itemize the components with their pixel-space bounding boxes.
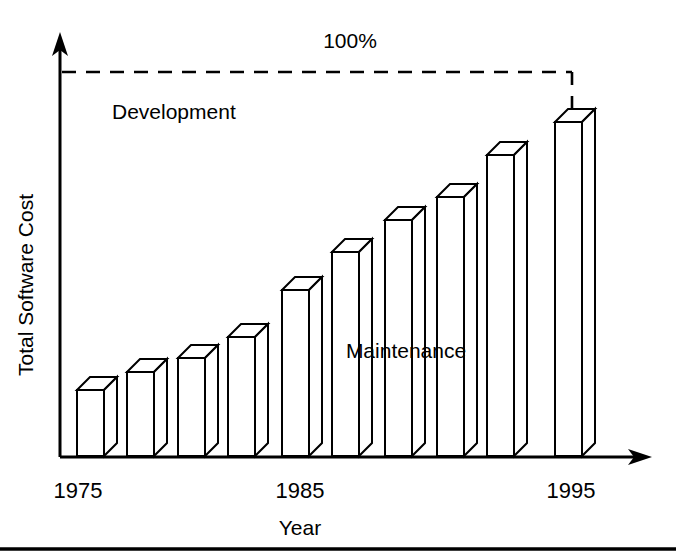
bar-10[interactable] xyxy=(555,109,595,456)
bar-1-front-face xyxy=(77,390,104,456)
bar-2[interactable] xyxy=(127,359,167,456)
x-tick-label-1975: 1975 xyxy=(54,478,103,503)
software-cost-figure: 100% Development Maintenance 1975 1985 1… xyxy=(0,0,676,558)
bar-4[interactable] xyxy=(228,324,268,456)
bar-10-side-face xyxy=(582,109,595,456)
bar-8-front-face xyxy=(437,197,464,456)
reference-line-label: 100% xyxy=(323,29,377,52)
bar-4-front-face xyxy=(228,337,255,456)
bar-1-side-face xyxy=(104,377,117,456)
x-tick-label-1985: 1985 xyxy=(276,478,325,503)
bar-5-side-face xyxy=(309,277,322,456)
bar-3[interactable] xyxy=(178,345,218,456)
bars-group xyxy=(77,109,595,456)
bar-2-front-face xyxy=(127,372,154,456)
bar-7-side-face xyxy=(412,207,425,456)
bar-3-side-face xyxy=(205,345,218,456)
bar-8-side-face xyxy=(464,184,477,456)
bar-1[interactable] xyxy=(77,377,117,456)
x-tick-label-1995: 1995 xyxy=(547,478,596,503)
bar-9-front-face xyxy=(487,155,514,456)
region-label-development: Development xyxy=(112,100,236,123)
chart-canvas: 100% Development Maintenance 1975 1985 1… xyxy=(0,0,676,558)
bar-4-side-face xyxy=(255,324,268,456)
x-axis-title: Year xyxy=(279,516,321,539)
bar-7[interactable] xyxy=(385,207,425,456)
bar-10-front-face xyxy=(555,122,582,456)
y-axis-title: Total Software Cost xyxy=(14,194,37,376)
bar-5[interactable] xyxy=(282,277,322,456)
bar-3-front-face xyxy=(178,358,205,456)
region-label-maintenance: Maintenance xyxy=(346,339,466,362)
bar-9[interactable] xyxy=(487,142,527,456)
bar-9-side-face xyxy=(514,142,527,456)
bar-7-front-face xyxy=(385,220,412,456)
bar-2-side-face xyxy=(154,359,167,456)
bar-8[interactable] xyxy=(437,184,477,456)
bar-5-front-face xyxy=(282,290,309,456)
